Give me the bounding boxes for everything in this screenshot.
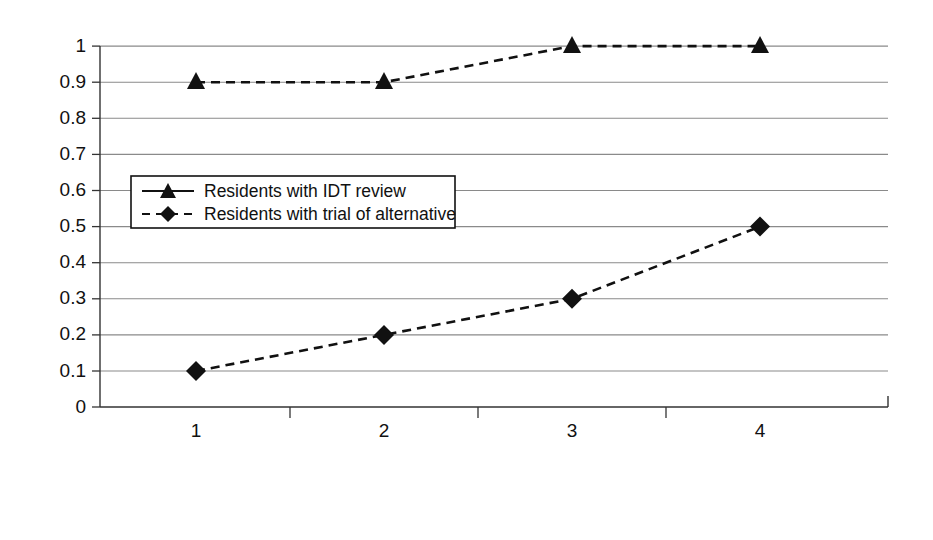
data-point-marker-triangle [751, 36, 769, 53]
series-residents-with-idt-review [187, 36, 769, 89]
data-point-marker-triangle [375, 72, 393, 89]
data-point-marker-diamond [374, 325, 394, 345]
legend-label: Residents with IDT review [204, 181, 406, 201]
legend-label: Residents with trial of alternative [204, 204, 456, 224]
y-tick-label: 0.5 [60, 215, 86, 236]
figure-caption-row: Figure 3–4 Restraint Reduction Processes… [0, 446, 933, 540]
series-1-line [196, 46, 760, 82]
data-point-marker-diamond [186, 361, 206, 381]
x-tick-label: 1 [191, 420, 202, 440]
data-point-marker-triangle [563, 36, 581, 53]
x-tick-label: 4 [755, 420, 766, 440]
y-tick-label: 1 [75, 35, 86, 56]
figure-container: 1 0.9 0.8 0.7 0.6 0.5 0.4 0.3 0.2 0.1 0 … [0, 0, 933, 540]
y-tick-label: 0 [75, 396, 86, 417]
y-tick-label: 0.2 [60, 323, 86, 344]
y-tick-label: 0.7 [60, 143, 86, 164]
line-chart-svg: 1 0.9 0.8 0.7 0.6 0.5 0.4 0.3 0.2 0.1 0 … [0, 0, 933, 440]
data-point-marker-diamond [750, 217, 770, 237]
x-tick-marks [290, 407, 666, 418]
y-tick-label: 0.1 [60, 360, 86, 381]
y-tick-label: 0.8 [60, 107, 86, 128]
y-tick-label: 0.4 [60, 251, 87, 272]
chart-legend[interactable]: Residents with IDT review Residents with… [131, 176, 456, 228]
x-tick-label: 2 [379, 420, 390, 440]
data-point-marker-triangle [187, 72, 205, 89]
y-tick-labels: 1 0.9 0.8 0.7 0.6 0.5 0.4 0.3 0.2 0.1 0 [60, 35, 87, 417]
y-tick-label: 0.9 [60, 71, 86, 92]
data-point-marker-diamond [562, 289, 582, 309]
y-tick-label: 0.3 [60, 287, 86, 308]
y-tick-label: 0.6 [60, 179, 86, 200]
chart-area: 1 0.9 0.8 0.7 0.6 0.5 0.4 0.3 0.2 0.1 0 … [0, 0, 933, 440]
x-tick-labels: 1 2 3 4 [191, 420, 766, 440]
y-tick-marks [92, 46, 100, 407]
x-tick-label: 3 [567, 420, 578, 440]
